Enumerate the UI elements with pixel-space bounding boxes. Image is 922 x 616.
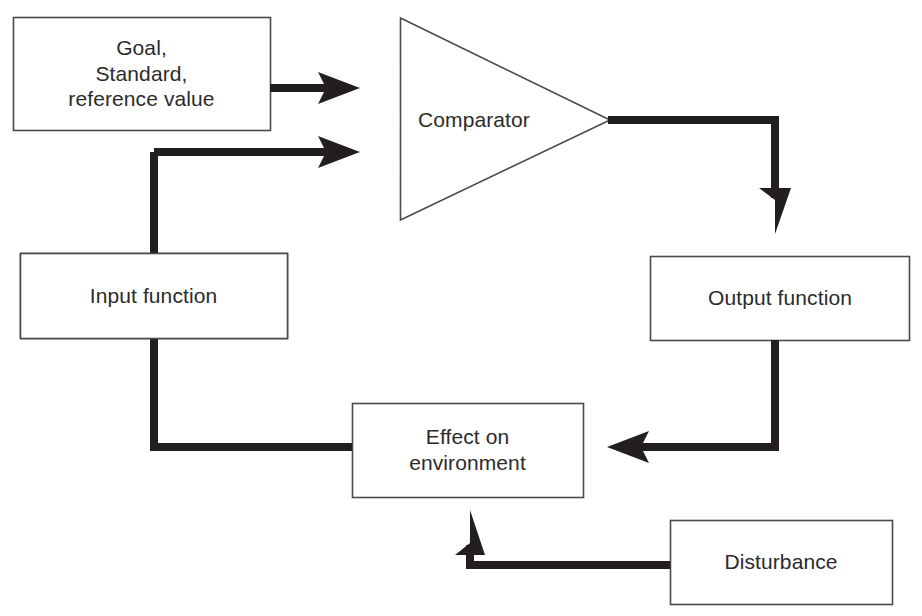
node-effect-on-environment[interactable]	[352, 403, 583, 497]
node-output-function[interactable]	[650, 256, 910, 340]
arrowhead-down-to-output-function	[759, 188, 791, 234]
connector-comparator-to-output-function	[608, 120, 791, 234]
node-input-function[interactable]	[20, 253, 287, 338]
node-goal[interactable]	[13, 17, 270, 130]
feedback-loop-diagram: Goal, Standard, reference value Comparat…	[0, 0, 922, 616]
connector-input-function-to-comparator	[154, 136, 360, 168]
connector-output-function-to-effect	[607, 340, 775, 463]
node-comparator[interactable]	[400, 18, 610, 220]
connector-goal-to-comparator	[270, 72, 360, 104]
node-disturbance[interactable]	[670, 520, 892, 604]
connector-disturbance-to-effect	[455, 510, 670, 565]
arrowhead-up-to-effect	[455, 510, 485, 555]
